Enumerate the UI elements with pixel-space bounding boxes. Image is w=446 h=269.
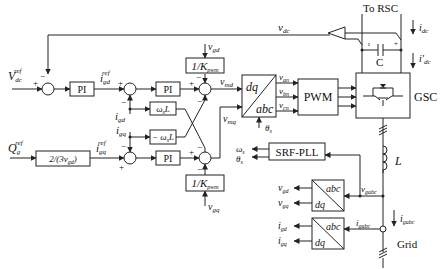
sum-vq — [199, 152, 211, 164]
svg-text:PI: PI — [78, 84, 87, 95]
svg-text:igq: igq — [278, 235, 287, 247]
svg-text:vmq: vmq — [223, 113, 237, 126]
svg-text:igabc: igabc — [356, 218, 371, 229]
svg-text:PI: PI — [164, 84, 173, 95]
svg-text:+: + — [33, 78, 38, 88]
three-phase-ticks-bottom — [379, 248, 387, 258]
svg-text:dq: dq — [315, 237, 325, 248]
sum-iq — [124, 152, 136, 164]
svg-text:− ωsL: − ωsL — [152, 132, 174, 143]
svg-text:vgd: vgd — [278, 182, 289, 194]
svg-text:PI: PI — [164, 153, 173, 164]
svg-text:abc: abc — [326, 183, 341, 194]
svg-text:To RSC: To RSC — [363, 2, 398, 14]
svg-text:−: − — [121, 141, 126, 151]
sum-vdc — [42, 83, 54, 95]
gsc-control-diagram: vdc Vdcref + − PI igdref + − igd PI + ωs… — [0, 0, 446, 269]
sum-vd — [199, 83, 211, 95]
svg-text:−: − — [197, 96, 202, 106]
igq-ref-label: igqref — [96, 139, 107, 156]
svg-text:−: − — [197, 142, 202, 152]
svg-text:−: − — [121, 97, 126, 107]
svg-text:abc: abc — [256, 102, 274, 116]
svg-text:+: + — [394, 40, 398, 48]
svg-text:vgabc: vgabc — [361, 184, 377, 195]
svg-text:ı: ı — [368, 40, 370, 48]
current-sensor-icon — [380, 226, 386, 232]
igq-label: igq — [116, 124, 127, 138]
svg-text:+: + — [189, 147, 194, 157]
svg-text:dq: dq — [246, 80, 258, 94]
svg-text:+: + — [118, 78, 123, 88]
svg-text:abc: abc — [326, 221, 341, 232]
svg-text:θs: θs — [236, 154, 243, 165]
three-phase-ticks-top — [379, 125, 387, 135]
svg-text:i'dc: i'dc — [419, 53, 431, 66]
vgq-input-label: vgq — [208, 201, 220, 214]
vdc-ref-label: Vdcref — [8, 67, 23, 84]
svg-text:−: − — [197, 164, 202, 174]
svg-text:vmd: vmd — [220, 76, 234, 89]
inductor-icon — [383, 146, 387, 170]
svg-text:vbn: vbn — [279, 86, 289, 97]
svg-text:GSC: GSC — [414, 90, 437, 104]
svg-text:+: + — [189, 78, 194, 88]
svg-text:vcn: vcn — [279, 100, 289, 111]
vdc-label: vdc — [278, 21, 290, 35]
sum-id — [124, 83, 136, 95]
svg-text:dq: dq — [315, 199, 325, 210]
svg-text:L: L — [394, 154, 402, 168]
svg-text:Grid: Grid — [397, 238, 418, 250]
igd-label: igd — [115, 110, 126, 124]
svg-text:igabc: igabc — [400, 213, 415, 225]
qg-ref-label: Qgref — [8, 139, 24, 156]
svg-text:−: − — [40, 71, 45, 81]
svg-text:igd: igd — [278, 220, 288, 232]
svg-text:idc: idc — [419, 22, 429, 35]
svg-text:van: van — [279, 72, 289, 83]
svg-text:SRF-PLL: SRF-PLL — [276, 146, 319, 158]
svg-text:C: C — [376, 56, 383, 68]
igd-ref-label: igdref — [100, 69, 111, 86]
vgd-input-label: vgd — [208, 41, 220, 54]
svg-text:PWM: PWM — [304, 90, 333, 104]
svg-text:θs: θs — [265, 123, 272, 134]
vdc-sensor-triangle — [328, 27, 345, 39]
svg-text:vgq: vgq — [278, 197, 288, 209]
svg-text:+: + — [119, 162, 124, 172]
